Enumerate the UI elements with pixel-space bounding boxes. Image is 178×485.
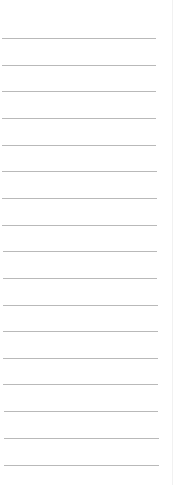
ruled-line bbox=[3, 358, 158, 359]
ruled-line bbox=[3, 384, 158, 385]
ruled-line bbox=[4, 465, 159, 466]
ruled-line bbox=[2, 118, 156, 119]
ruled-line bbox=[4, 411, 158, 412]
ruled-line bbox=[2, 225, 157, 226]
paper-right-edge bbox=[172, 0, 173, 485]
ruled-line bbox=[4, 438, 159, 439]
ruled-line bbox=[2, 171, 157, 172]
lined-paper-sheet bbox=[0, 0, 178, 485]
ruled-line bbox=[3, 278, 157, 279]
ruled-line bbox=[3, 331, 158, 332]
ruled-line bbox=[2, 145, 156, 146]
ruled-line bbox=[2, 65, 156, 66]
ruled-line bbox=[2, 91, 156, 92]
ruled-line bbox=[3, 305, 158, 306]
ruled-line bbox=[2, 198, 157, 199]
ruled-line bbox=[3, 251, 157, 252]
ruled-line bbox=[2, 38, 156, 39]
